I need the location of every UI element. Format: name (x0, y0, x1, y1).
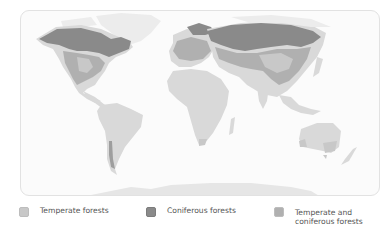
southeast-asia (279, 95, 321, 115)
africa (167, 69, 229, 145)
map-legend: Temperate forests Coniferous forests Tem… (0, 200, 388, 229)
world-map (20, 10, 380, 196)
coniferous-swatch (146, 207, 156, 217)
legend-item-temperate: Temperate forests (19, 206, 109, 217)
legend-item-mixed: Temperate and coniferous forests (274, 206, 363, 226)
legend-label-coniferous: Coniferous forests (167, 206, 236, 215)
legend-item-coniferous: Coniferous forests (146, 206, 236, 217)
temperate-south-africa (199, 139, 207, 146)
world-map-svg (20, 10, 380, 196)
new-zealand (341, 147, 357, 165)
tasmania (323, 155, 327, 159)
india (257, 87, 269, 109)
legend-label-mixed: Temperate and coniferous forests (295, 208, 363, 226)
temperate-southeast-australia (323, 141, 337, 153)
legend-label-temperate: Temperate forests (40, 206, 109, 215)
madagascar (229, 117, 235, 135)
antarctica (81, 183, 321, 196)
mixed-swatch (274, 207, 284, 217)
temperate-swatch (19, 207, 29, 217)
south-america (97, 103, 143, 175)
